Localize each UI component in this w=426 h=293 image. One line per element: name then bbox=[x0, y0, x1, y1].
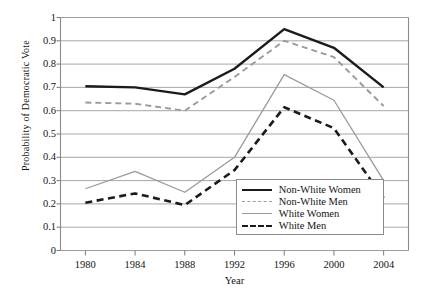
legend-label: Non-White Men bbox=[279, 196, 348, 207]
legend-label: White Men bbox=[279, 220, 327, 231]
legend-swatch-icon bbox=[242, 183, 272, 195]
legend-item: Non-White Men bbox=[242, 195, 377, 207]
legend-label: Non-White Women bbox=[279, 184, 361, 195]
legend-swatch-icon bbox=[242, 219, 272, 231]
x-tick-label: 1980 bbox=[75, 259, 96, 270]
x-tick-label: 1988 bbox=[174, 259, 195, 270]
x-tick-label: 2004 bbox=[373, 259, 394, 270]
x-tick-label: 1996 bbox=[274, 259, 295, 270]
x-tick-label: 1992 bbox=[224, 259, 245, 270]
legend-item: White Men bbox=[242, 219, 377, 231]
line-chart-figure: Probability of Democratic Vote 00.10.20.… bbox=[0, 0, 426, 293]
chart-legend: Non-White WomenNon-White MenWhite WomenW… bbox=[236, 179, 384, 235]
x-axis-tick-labels: 1980198419881992199620002004 bbox=[0, 0, 426, 293]
legend-swatch-icon bbox=[242, 207, 272, 219]
x-tick-label: 1984 bbox=[125, 259, 146, 270]
legend-label: White Women bbox=[279, 208, 340, 219]
legend-item: Non-White Women bbox=[242, 183, 377, 195]
legend-item: White Women bbox=[242, 207, 377, 219]
x-tick-label: 2000 bbox=[323, 259, 344, 270]
legend-swatch-icon bbox=[242, 195, 272, 207]
x-axis-title: Year bbox=[225, 275, 244, 286]
